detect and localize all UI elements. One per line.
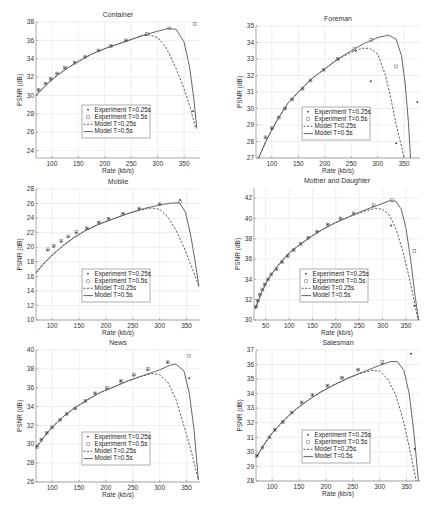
data-point-dot <box>311 394 313 396</box>
data-point-dot <box>390 225 392 227</box>
y-tick-label: 34 <box>27 403 35 410</box>
y-tick-label: 28 <box>27 459 35 466</box>
y-tick-label: 10 <box>27 316 35 323</box>
x-tick-label: 350 <box>401 322 412 329</box>
chart-title: Salesman <box>322 339 353 346</box>
x-tick-label: 100 <box>47 322 58 329</box>
data-point-dot <box>50 78 52 80</box>
y-tick-label: 30 <box>27 92 35 99</box>
y-tick-label: 31 <box>247 88 255 95</box>
model-line-0.25s <box>256 370 416 481</box>
y-tick-label: 24 <box>27 147 35 154</box>
x-axis-label: Rate (kb/s) <box>321 329 353 337</box>
data-point-dot <box>84 56 86 58</box>
data-point-square <box>413 250 416 253</box>
y-tick-label: 34 <box>27 55 35 62</box>
y-tick-label: 30 <box>247 448 255 455</box>
chart-title: News <box>109 339 127 346</box>
x-tick-label: 200 <box>100 322 111 329</box>
x-tick-label: 150 <box>74 484 85 491</box>
data-point-square <box>395 65 398 68</box>
x-tick-label: 100 <box>46 160 57 167</box>
x-axis-label: Rate (kb/s) <box>102 329 134 337</box>
data-point-dot <box>66 413 68 415</box>
x-tick-label: 350 <box>181 484 192 491</box>
y-tick-label: 16 <box>27 273 35 280</box>
y-tick-label: 26 <box>27 128 35 135</box>
y-tick-label: 33 <box>247 404 255 411</box>
legend-entry: Model T=0.25s <box>313 284 355 291</box>
data-point-dot <box>138 208 140 210</box>
y-axis-label: PSNR (dB) <box>236 76 244 108</box>
y-tick-label: 20 <box>27 243 35 250</box>
legend: Experiment T=0.25sExperiment T=0.5sModel… <box>82 105 151 138</box>
y-tick-label: 18 <box>27 258 35 265</box>
data-point-dot <box>167 361 169 363</box>
chart-foreman: 100150200250300350272829303132333435Fore… <box>236 15 420 175</box>
y-tick-label: 35 <box>247 375 255 382</box>
y-tick-label: 28 <box>27 110 35 117</box>
x-tick-label: 350 <box>181 322 192 329</box>
y-tick-label: 32 <box>27 422 35 429</box>
data-point-dot <box>275 268 277 270</box>
data-point-dot <box>341 377 343 379</box>
x-tick-label: 250 <box>127 322 138 329</box>
x-tick-label: 150 <box>74 322 85 329</box>
chart-news: 1001502002503003502628303234363840NewsRa… <box>16 339 200 499</box>
data-point-dot <box>370 80 372 82</box>
data-point-dot <box>256 455 258 457</box>
data-point-dot <box>86 227 88 229</box>
data-point-dot <box>59 419 61 421</box>
data-point-dot <box>264 283 266 285</box>
x-tick-label: 300 <box>154 484 165 491</box>
data-point-dot <box>94 392 96 394</box>
x-tick-label: 250 <box>127 484 138 491</box>
data-point-dot <box>56 72 58 74</box>
data-point-dot <box>40 439 42 441</box>
data-point-dot <box>278 117 280 119</box>
y-tick-label: 30 <box>27 440 35 447</box>
y-tick-label: 29 <box>247 121 255 128</box>
x-axis-label: Rate (kb/s) <box>322 167 354 175</box>
data-point-dot <box>301 401 303 403</box>
y-axis-label: PSNR (dB) <box>16 238 24 270</box>
legend: Experiment T=0.25sExperiment T=0.5sModel… <box>82 432 151 465</box>
data-point-dot <box>284 108 286 110</box>
data-point-dot <box>259 294 261 296</box>
x-tick-label: 200 <box>330 322 341 329</box>
x-axis-label: Rate (kb/s) <box>102 491 134 499</box>
y-tick-label: 28 <box>27 185 35 192</box>
chart-title: Foreman <box>324 15 352 22</box>
data-point-dot <box>265 136 267 138</box>
data-point-dot <box>395 142 397 144</box>
y-tick-label: 30 <box>245 316 253 323</box>
data-point-dot <box>45 83 47 85</box>
y-tick-label: 36 <box>245 255 253 262</box>
x-tick-label: 200 <box>99 160 110 167</box>
data-point-dot <box>353 212 355 214</box>
data-point-dot <box>327 385 329 387</box>
data-point-dot <box>97 49 99 51</box>
x-tick-label: 50 <box>262 322 270 329</box>
chart-mobile: 10015020025030035010121416182022242628Mo… <box>16 178 200 337</box>
y-tick-label: 12 <box>27 302 35 309</box>
legend-entry: Model T=0.5s <box>315 452 353 459</box>
y-tick-label: 34 <box>245 276 253 283</box>
data-point-dot <box>274 429 276 431</box>
y-tick-label: 26 <box>27 478 35 485</box>
x-axis-label: Rate (kb/s) <box>102 167 134 175</box>
legend-entry: Model T=0.25s <box>95 447 137 454</box>
y-tick-label: 36 <box>247 361 255 368</box>
x-tick-label: 300 <box>377 322 388 329</box>
y-tick-label: 33 <box>247 55 255 62</box>
x-tick-label: 150 <box>73 160 84 167</box>
y-tick-label: 40 <box>245 215 253 222</box>
data-point-dot <box>291 98 293 100</box>
data-point-dot <box>255 306 257 308</box>
chart-container: 1001502002503003502426283032343638Contai… <box>16 11 200 175</box>
data-point-dot <box>122 213 124 215</box>
data-point-dot <box>74 61 76 63</box>
data-point-dot <box>309 79 311 81</box>
data-point-dot <box>337 58 339 60</box>
data-point-dot <box>84 400 86 402</box>
